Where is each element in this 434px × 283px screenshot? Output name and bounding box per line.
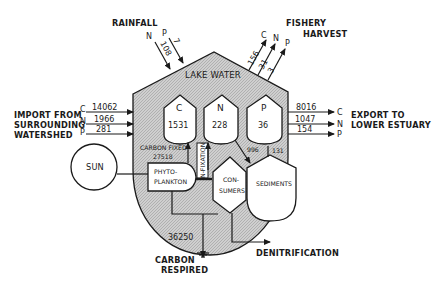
export-c-value: 8016 <box>296 103 316 112</box>
export-n-element: N <box>337 120 343 129</box>
flow-131-value: 131 <box>272 147 284 154</box>
lake-water-label: LAKE WATER <box>185 70 241 80</box>
pool-nitrogen-label: N <box>217 103 224 113</box>
import-label-line2: SURROUNDING <box>14 120 85 130</box>
import-n-element: N <box>80 117 86 126</box>
flow-996-value: 996 <box>247 146 259 153</box>
n-fixation-label: N-FIXATION <box>199 142 206 178</box>
phytoplankton-label-line2: PLANKTON <box>154 178 187 185</box>
fishery-label-line2: HARVEST <box>303 29 348 39</box>
sediments-label: SEDIMENTS <box>256 180 292 187</box>
consumers-label-line1: CON- <box>223 176 239 183</box>
respiration-value: 36250 <box>168 233 193 242</box>
sediments-compartment <box>247 155 296 221</box>
fishery-label-line1: FISHERY <box>286 18 327 28</box>
carbon-fixed-label: CARBON FIXED <box>140 144 187 151</box>
pool-nitrogen-value: 228 <box>212 121 227 130</box>
import-p-element: P <box>80 128 85 137</box>
import-p-value: 281 <box>96 125 111 134</box>
export-n-value: 1047 <box>295 115 315 124</box>
carbon-respired-label-line2: RESPIRED <box>161 265 208 275</box>
pool-phosphorus-label: P <box>261 103 267 113</box>
denitrification-label: DENITRIFICATION <box>256 248 339 258</box>
sun-label: SUN <box>86 162 104 172</box>
export-p-value: 154 <box>297 125 312 134</box>
lake-nutrient-flow-diagram: LAKE WATER C 1531 N 228 P 36 RAINFALL N … <box>0 0 434 283</box>
fishery-p-element: P <box>285 39 290 48</box>
fishery-c-element: C <box>261 31 267 40</box>
consumers-label-line2: SUMERS <box>219 187 245 194</box>
export-p-element: P <box>337 130 342 139</box>
export-c-element: C <box>337 108 343 117</box>
rainfall-label: RAINFALL <box>112 18 158 28</box>
export-label-line2: LOWER ESTUARY <box>351 120 432 130</box>
import-n-value: 1966 <box>94 115 114 124</box>
export-label-line1: EXPORT TO <box>351 110 405 120</box>
fishery-n-element: N <box>273 34 279 43</box>
pool-phosphorus-value: 36 <box>258 121 268 130</box>
carbon-respired-label-line1: CARBON <box>155 255 195 265</box>
import-c-element: C <box>80 105 86 114</box>
pool-carbon-value: 1531 <box>168 121 188 130</box>
phytoplankton-label-line1: PHYTO- <box>154 168 177 175</box>
carbon-fixed-value: 27518 <box>153 153 173 160</box>
rainfall-p-element: P <box>162 29 167 38</box>
import-label-line3: WATERSHED <box>14 130 73 140</box>
import-c-value: 14062 <box>92 103 117 112</box>
import-label-line1: IMPORT FROM <box>14 110 82 120</box>
rainfall-n-element: N <box>146 32 152 41</box>
pool-carbon-label: C <box>176 103 182 113</box>
